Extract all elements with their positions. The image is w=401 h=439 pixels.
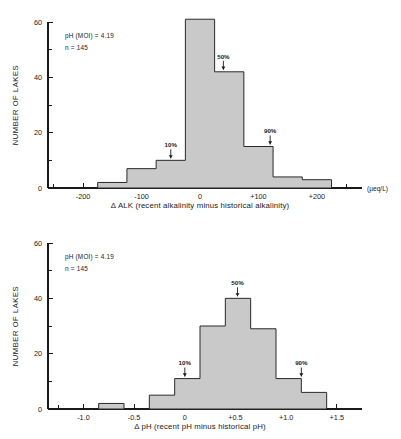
bars-group	[98, 19, 332, 188]
percentile-label: 10%	[165, 141, 178, 148]
histogram-bar	[99, 403, 124, 409]
x-axis-units-label: (µeq/L)	[367, 185, 388, 193]
x-tick-label: +100	[250, 192, 266, 201]
y-axis-title: NUMBER OF LAKES	[11, 65, 20, 145]
bars-group	[99, 298, 327, 409]
percentile-arrowhead	[183, 373, 187, 376]
percentile-label: 50%	[231, 279, 244, 286]
x-tick-label: +200	[309, 192, 325, 201]
chart-panel-delta-alk: 0204060-200-1000+100+20010%50%90%pH (MOI…	[0, 0, 401, 220]
histogram-bar	[98, 19, 332, 188]
percentile-arrowhead	[235, 293, 239, 296]
percentile-label: 50%	[217, 53, 230, 60]
x-tick-label: -0.5	[128, 413, 141, 422]
x-tick-label: 0	[198, 192, 202, 201]
x-tick-label: +1.5	[330, 413, 344, 422]
y-tick-label: 40	[34, 294, 42, 303]
plot-annotation: pH (MOI) = 4.19	[65, 32, 114, 40]
percentile-arrowhead	[268, 141, 272, 144]
percentile-arrowhead	[221, 67, 225, 70]
plot-annotation: n = 145	[65, 265, 88, 272]
percentile-arrowhead	[169, 155, 173, 158]
y-tick-label: 60	[34, 18, 42, 27]
y-tick-label: 20	[34, 128, 42, 137]
x-tick-label: +1.0	[279, 413, 293, 422]
delta-ph-plot: 0204060-1.0-0.50+0.5+1.0+1.510%50%90%pH …	[0, 219, 401, 439]
x-tick-label: -1.0	[77, 413, 90, 422]
x-tick-label: -100	[134, 192, 149, 201]
plot-annotation: n = 145	[65, 44, 88, 51]
y-tick-label: 20	[34, 349, 42, 358]
x-tick-label: +0.5	[228, 413, 242, 422]
chart-panel-delta-ph: 0204060-1.0-0.50+0.5+1.0+1.510%50%90%pH …	[0, 219, 401, 439]
y-tick-label: 0	[38, 405, 42, 414]
percentile-arrowhead	[299, 373, 303, 376]
plot-annotation: pH (MOI) = 4.19	[65, 253, 114, 261]
histogram-bar	[149, 298, 326, 409]
x-tick-label: -200	[76, 192, 91, 201]
y-tick-label: 40	[34, 73, 42, 82]
percentile-label: 90%	[264, 127, 277, 134]
x-tick-label: 0	[183, 413, 187, 422]
y-tick-label: 60	[34, 239, 42, 248]
delta-alk-plot: 0204060-200-1000+100+20010%50%90%pH (MOI…	[0, 0, 401, 220]
x-axis-title: Δ ALK (recent alkalinity minus historica…	[111, 201, 290, 210]
x-axis-title: Δ pH (recent pH minus historical pH)	[134, 422, 266, 431]
percentile-label: 90%	[295, 359, 308, 366]
y-tick-label: 0	[38, 184, 42, 193]
y-axis-title: NUMBER OF LAKES	[11, 286, 20, 366]
percentile-label: 10%	[179, 359, 192, 366]
